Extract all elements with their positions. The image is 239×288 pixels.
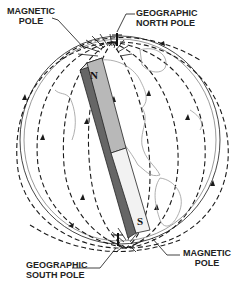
label-magnetic-north-pole: MAGNETIC POLE <box>6 6 56 26</box>
continent-greenland <box>140 49 166 72</box>
field-arrow-left-inner <box>84 118 89 124</box>
leader-magnetic-north <box>52 18 84 48</box>
label-line: GEOGRAPHIC <box>26 260 88 270</box>
label-line: SOUTH POLE <box>26 270 88 280</box>
magnet-south-letter: S <box>137 215 143 227</box>
label-geographic-north-pole: GEOGRAPHIC NORTH POLE <box>136 8 198 28</box>
label-line: POLE <box>6 16 56 26</box>
label-line: POLE <box>180 258 234 268</box>
field-arrow-right-inner <box>146 90 151 96</box>
field-arrow-bottom-mid <box>80 194 85 200</box>
label-magnetic-south-pole: MAGNETIC POLE <box>180 248 234 268</box>
label-line: NORTH POLE <box>136 18 198 28</box>
continent-east-fragment <box>190 110 202 130</box>
field-arrow-left-3 <box>40 134 45 140</box>
continent-west-coast <box>55 90 75 140</box>
bar-magnet: N S <box>80 58 150 238</box>
magnet-north-letter: N <box>90 69 98 81</box>
field-arrow-right-2 <box>185 114 190 120</box>
field-line-top-arc <box>60 38 200 61</box>
magnetic-field-diagram: N S <box>0 0 239 288</box>
label-geographic-south-pole: GEOGRAPHIC SOUTH POLE <box>26 260 88 280</box>
label-line: MAGNETIC <box>180 248 234 258</box>
label-line: MAGNETIC <box>6 6 56 16</box>
field-arrow-left-outer <box>22 94 27 100</box>
continent-south-america <box>155 178 181 226</box>
leader-magnetic-south <box>152 238 180 255</box>
leader-geographic-north <box>117 14 135 32</box>
label-line: GEOGRAPHIC <box>136 8 198 18</box>
